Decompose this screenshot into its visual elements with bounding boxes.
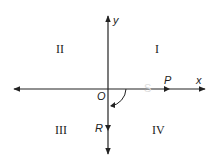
ray-or-arrow xyxy=(105,125,111,131)
point-p-label: P xyxy=(164,74,172,86)
quadrant-iii-label: III xyxy=(55,123,67,137)
y-axis-label: y xyxy=(112,14,120,26)
coordinate-diagram: y x P O R S I II III IV xyxy=(0,0,216,167)
rotation-arc-arrowhead xyxy=(110,102,115,108)
ray-op-arrow xyxy=(164,86,170,92)
x-axis-label: x xyxy=(195,74,202,86)
faint-s-label: S xyxy=(144,82,151,94)
quadrant-iv-label: IV xyxy=(152,123,165,137)
origin-label: O xyxy=(97,90,106,102)
quadrant-ii-label: II xyxy=(56,42,64,56)
point-r-label: R xyxy=(95,122,103,134)
quadrant-i-label: I xyxy=(155,42,159,56)
